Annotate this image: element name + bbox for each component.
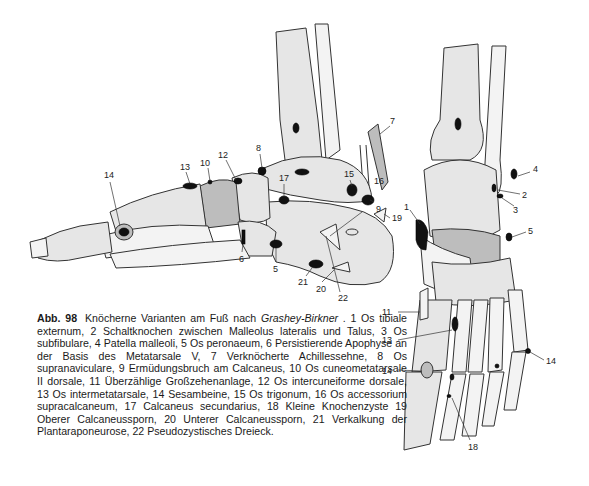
- plantar-calcification: [309, 260, 323, 268]
- toe-tips-lateral: [30, 238, 48, 258]
- cuneiform-lateral: [200, 180, 240, 228]
- label-22: 22: [338, 293, 348, 303]
- label-10: 10: [200, 158, 210, 168]
- sesamoid-dorsal-medial: [421, 362, 433, 378]
- os-accessorium-supracalcaneum: [362, 195, 374, 205]
- label-16: 16: [374, 176, 384, 186]
- os-intermetatarsale-dorsal: [452, 317, 458, 331]
- patella-malleoli: [511, 169, 517, 179]
- label-7: 7: [390, 116, 395, 126]
- label-18: 18: [468, 442, 478, 452]
- sesamoid-dorsal-lateral: [526, 349, 531, 354]
- sesamoid-core-lateral: [119, 228, 129, 236]
- label-2: 2: [522, 190, 527, 200]
- figure-title: Knöcherne Varianten am Fuß nach: [85, 312, 261, 324]
- figure-caption: Abb. 98Knöcherne Varianten am Fuß nach G…: [37, 312, 407, 438]
- apophysis-metatarsal-5: [242, 230, 245, 244]
- label-17: 17: [279, 173, 289, 183]
- label-21: 21: [298, 277, 308, 287]
- metatarsal-4-dorsal: [488, 298, 504, 372]
- toe-4-phalanges: [482, 372, 504, 426]
- calcaneus-secundarius: [279, 196, 289, 204]
- hallux-phalanges: [404, 372, 442, 450]
- label-14-lateral: 14: [104, 170, 114, 180]
- tibia-lateral: [276, 28, 322, 168]
- figure-author: Grashey-Birkner: [261, 312, 338, 324]
- figure-caption-body: 1 Os tibiale externum, 2 Schaltknochen z…: [37, 312, 407, 437]
- figure-number: Abb. 98: [37, 312, 77, 324]
- talus-marking: [295, 169, 309, 175]
- label-1: 1: [404, 202, 409, 212]
- label-4: 4: [533, 164, 538, 174]
- dorsal-foot-view: 4 2 3 1 5 11 13 14 14 18: [382, 44, 556, 452]
- lateral-foot-view: 14 13 10 12 8 17 7 15 16 9 19 6 5 21 20 …: [30, 24, 402, 303]
- phalanx-marker-2: [495, 364, 499, 368]
- toe-3-phalanges: [462, 374, 484, 436]
- label-8: 8: [256, 143, 261, 153]
- phalanx-marker: [450, 374, 454, 380]
- os-tibiale-externum: [416, 220, 428, 250]
- tibia-dorsal: [430, 44, 483, 160]
- label-9: 9: [376, 204, 381, 214]
- os-supranaviculare: [258, 167, 266, 175]
- supernumerary-hallux: [420, 288, 428, 320]
- label-12: 12: [218, 150, 228, 160]
- label-5-lateral: 5: [273, 264, 278, 274]
- os-peronaeum-lateral: [270, 240, 282, 248]
- label-5-dorsal: 5: [528, 226, 533, 236]
- toe-phalanges-lateral: [38, 222, 112, 261]
- os-subfibulare: [497, 194, 503, 198]
- label-15: 15: [344, 169, 354, 179]
- label-19: 19: [392, 213, 402, 223]
- label-20: 20: [316, 284, 326, 294]
- os-peronaeum-dorsal: [506, 233, 512, 241]
- toe-5-phalanges: [504, 352, 526, 410]
- label-6: 6: [239, 254, 244, 264]
- label-13-lateral: 13: [180, 162, 190, 172]
- tibia-cyst: [293, 123, 299, 133]
- metatarsal-5-dorsal: [508, 290, 528, 352]
- label-3: 3: [513, 205, 518, 215]
- bone-cyst: [447, 395, 451, 398]
- tibia-dorsal-cyst: [455, 118, 461, 130]
- label-14-dorsal-lateral: 14: [546, 356, 556, 366]
- toe-2-phalanges: [440, 374, 466, 440]
- interposed-ossicle: [492, 184, 496, 192]
- figure-title-end: .: [338, 312, 346, 324]
